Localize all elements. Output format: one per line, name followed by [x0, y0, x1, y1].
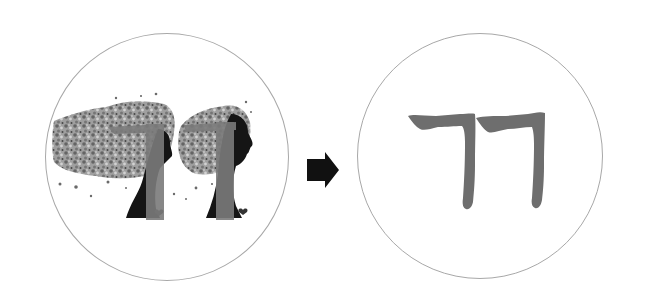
source-description: Stylized artwork: two female silhouettes…	[0, 0, 1, 1]
silhouette-hair-artwork	[46, 34, 289, 281]
result-glyph-text: ㄲ	[0, 0, 1, 1]
result-glyph-circle	[357, 33, 603, 279]
result-description: Extracted glyph rendered alone in gray b…	[0, 0, 1, 1]
source-image-circle	[45, 33, 289, 281]
glyph-ssanggiyeok	[358, 34, 603, 279]
arrow-right-icon	[306, 151, 340, 189]
